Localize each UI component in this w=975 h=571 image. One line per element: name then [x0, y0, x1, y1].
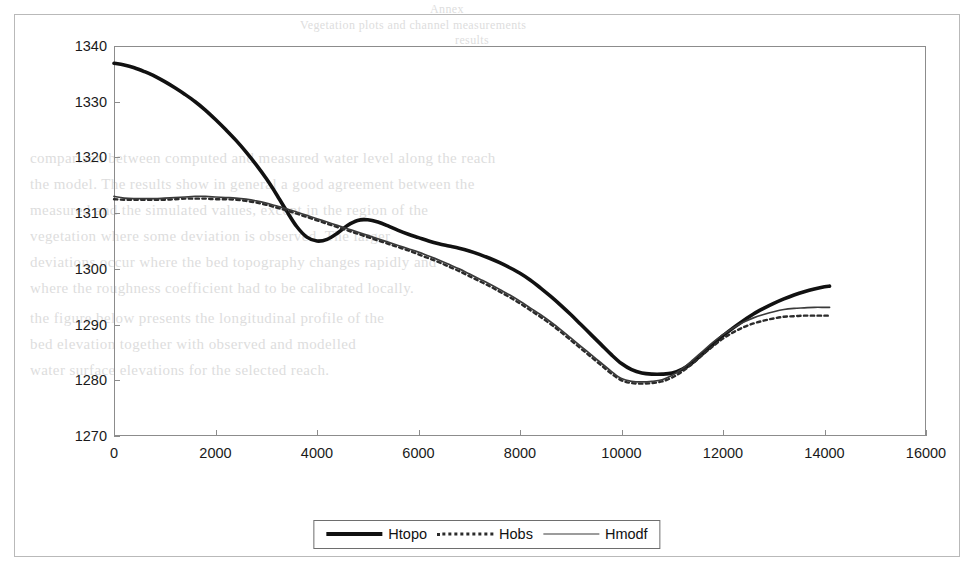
data-series-line	[114, 63, 830, 374]
x-axis-tick-label: 12000	[703, 445, 743, 461]
y-axis-tick-label: 1290	[75, 317, 107, 333]
legend-item: Hmodf	[543, 526, 648, 542]
x-axis-tick-label: 14000	[804, 445, 844, 461]
y-axis-tick-mark	[114, 325, 120, 326]
x-axis-tick-label: 10000	[601, 445, 641, 461]
figure-frame: 1270128012901300131013201330134002000400…	[14, 14, 960, 557]
x-axis-tick-mark	[926, 430, 927, 436]
y-axis-tick-mark	[114, 269, 120, 270]
x-axis-tick-label: 8000	[504, 445, 536, 461]
x-axis-tick-label: 4000	[301, 445, 333, 461]
y-axis-tick-mark	[114, 213, 120, 214]
legend-item-label: Hmodf	[605, 526, 648, 542]
y-axis-tick-mark	[114, 436, 120, 437]
y-axis-tick-mark	[114, 102, 120, 103]
x-axis-tick-mark	[216, 430, 217, 436]
y-axis-tick-label: 1330	[75, 94, 107, 110]
x-axis-tick-label: 6000	[402, 445, 434, 461]
x-axis-tick-label: 2000	[199, 445, 231, 461]
legend-item-label: Hobs	[499, 526, 533, 542]
legend-item: Htopo	[326, 526, 427, 542]
x-axis-tick-mark	[114, 430, 115, 436]
y-axis-tick-mark	[114, 157, 120, 158]
x-axis-tick-mark	[520, 430, 521, 436]
figure-page: { "figure": { "background_note": "scanne…	[0, 0, 975, 571]
x-axis-tick-mark	[419, 430, 420, 436]
data-series-line	[114, 199, 830, 384]
y-axis-tick-label: 1270	[75, 428, 107, 444]
y-axis-tick-label: 1320	[75, 149, 107, 165]
y-axis-tick-label: 1300	[75, 261, 107, 277]
x-axis-tick-label: 16000	[906, 445, 946, 461]
chart-plot-area: 1270128012901300131013201330134002000400…	[114, 46, 926, 436]
chart-legend: HtopoHobsHmodf	[313, 520, 660, 549]
y-axis-tick-mark	[114, 46, 120, 47]
x-axis-tick-mark	[622, 430, 623, 436]
data-series-line	[114, 196, 830, 382]
dotted-line-swatch	[437, 528, 493, 540]
x-axis-tick-mark	[723, 430, 724, 436]
x-axis-tick-mark	[317, 430, 318, 436]
thick-solid-line-swatch	[326, 528, 382, 540]
y-axis-tick-label: 1310	[75, 205, 107, 221]
chart-lines-svg	[114, 46, 926, 436]
y-axis-tick-mark	[114, 380, 120, 381]
x-axis-tick-mark	[825, 430, 826, 436]
x-axis-tick-label: 0	[110, 445, 118, 461]
y-axis-tick-label: 1280	[75, 372, 107, 388]
legend-item-label: Htopo	[388, 526, 427, 542]
thin-solid-line-swatch	[543, 528, 599, 540]
y-axis-tick-label: 1340	[75, 38, 107, 54]
legend-item: Hobs	[437, 526, 533, 542]
